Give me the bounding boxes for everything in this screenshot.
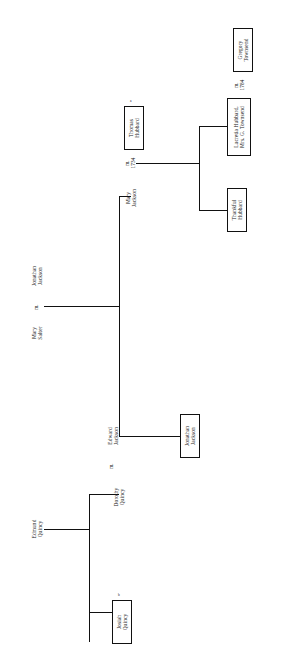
node-thankful-hubbard: Thankful Hubbard [227, 188, 247, 232]
connector-hubbard-descent [136, 163, 200, 164]
node-label-line2: Jackson [131, 189, 137, 207]
node-lucretia-hubbard: Lucretia Hubbard, Mrs. G. Townsend [227, 98, 251, 156]
node-gregory-townsend: Gregory Townsend [233, 28, 253, 72]
marriage-marker-edward: m. [106, 459, 116, 473]
node-thomas-hubbard: Thomas Hubbard [124, 106, 144, 150]
connector-hubbard-children-spine [199, 126, 200, 210]
marriage-marker-townsend: m. 1784 [233, 74, 245, 96]
connector-edward-descent [120, 436, 180, 437]
node-label-line2: Mrs. G. Townsend [239, 106, 245, 148]
node-label-line2: Jackson [190, 426, 196, 446]
connector-to-thankful [199, 210, 227, 211]
node-dorothy-quincy: Dorothy Quincy [112, 477, 126, 517]
node-label-line2: Hubbard [237, 200, 243, 221]
genealogy-chart: Jonathan Jackson m. Mary Salter Mary Jac… [0, 0, 284, 666]
marriage-marker-hubbard: m. 1734 [124, 152, 136, 174]
footnote-marker-thomas-hubbard: a [130, 99, 132, 103]
node-label-line2: Quincy [122, 614, 128, 631]
node-jonathan-jackson-sr: Jonathan Jackson [30, 255, 44, 297]
connector-quincy-children-spine [89, 494, 90, 642]
node-edmund-quincy: Edmund Quincy [30, 508, 44, 550]
marriage-label: m. [33, 304, 39, 310]
marriage-marker-root: m. [31, 300, 41, 314]
node-label-line2: Salter [37, 326, 43, 339]
connector-root-children-spine [119, 196, 120, 436]
node-label-line2: Quincy [37, 520, 43, 539]
connector-to-lucretia [199, 126, 227, 127]
connector-to-josiah-quincy [89, 612, 113, 613]
node-label-line2: Jackson [37, 266, 43, 286]
marriage-label: m. [108, 463, 114, 469]
node-jonathan-jackson-jr: Jonathan Jackson [180, 414, 200, 458]
marriage-year: 1784 [239, 80, 245, 91]
node-label-line2: Quincy [119, 488, 125, 507]
node-label-line2: Jackson [113, 427, 119, 445]
node-mary-jackson: Mary Jackson [124, 178, 138, 218]
node-label-line2: Townsend [243, 38, 249, 61]
node-label-line2: Hubbard [134, 118, 140, 138]
node-mary-salter: Mary Salter [30, 316, 44, 350]
connector-edmund-descent [44, 529, 90, 530]
node-josiah-quincy: Josiah Quincy [112, 600, 132, 644]
connector-root-descent [44, 306, 120, 307]
node-edward-jackson: Edward Jackson [106, 415, 120, 457]
footnote-marker-josiah-quincy: b [118, 593, 120, 597]
